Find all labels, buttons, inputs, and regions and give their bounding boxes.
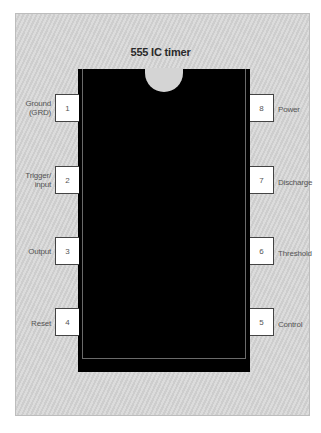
pin-1-label-line2: (GRD): [26, 108, 51, 117]
ic-chip-body: [78, 69, 250, 372]
pin-8: 8: [250, 94, 274, 122]
pin-7-label-line1: Discharge: [278, 178, 312, 187]
pin-3: 3: [55, 237, 79, 265]
pin-5-label-line1: Control: [278, 320, 302, 329]
pin-4-label-line1: Reset: [31, 319, 51, 328]
diagram-title: 555 IC timer: [0, 46, 321, 58]
chip-inner-outline: [82, 69, 246, 359]
pin-1: 1: [55, 94, 79, 122]
pin-1-label-line1: Ground: [26, 99, 51, 108]
pin-8-label: Power: [278, 105, 300, 114]
pin-2-label-line2: input: [25, 180, 51, 189]
pin-2-label-line1: Trigger/: [25, 171, 51, 180]
pin-8-label-line1: Power: [278, 105, 300, 114]
pin-6-label-line1: Threshold: [278, 249, 312, 258]
pin-2: 2: [55, 166, 79, 194]
pin-5-label: Control: [278, 320, 302, 329]
pin-5: 5: [250, 308, 274, 336]
pin-4-label: Reset: [31, 319, 51, 328]
pin-3-label-line1: Output: [28, 247, 51, 256]
pin-7-label: Discharge: [278, 178, 312, 187]
pin-6-label: Threshold: [278, 249, 312, 258]
pin-1-label: Ground (GRD): [26, 99, 51, 117]
pin-3-label: Output: [28, 247, 51, 256]
pin-2-label: Trigger/ input: [25, 171, 51, 189]
pin-4: 4: [55, 308, 79, 336]
pin-7: 7: [250, 166, 274, 194]
pin-6: 6: [250, 237, 274, 265]
